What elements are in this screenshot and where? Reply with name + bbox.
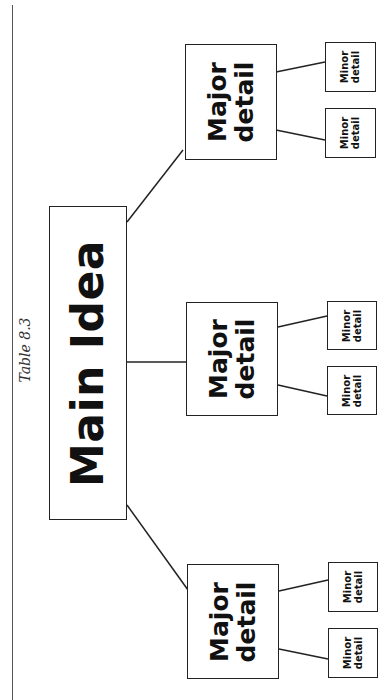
- major-detail-box-1: Major detail: [185, 44, 277, 160]
- major-detail-line2: detail: [232, 319, 259, 400]
- minor-detail-line2: detail: [353, 571, 364, 603]
- minor-detail-box-2a: Minor detail: [327, 301, 377, 350]
- major-detail-line1: Major: [206, 581, 233, 662]
- minor-detail-box-3b: Minor detail: [328, 628, 378, 678]
- minor-detail-line1: Minor: [342, 571, 353, 603]
- main-idea-box: Main Idea: [49, 206, 127, 520]
- major-detail-line1: Major: [204, 62, 231, 143]
- major-detail-line2: detail: [231, 62, 258, 143]
- major-detail-line2: detail: [233, 581, 260, 662]
- major-detail-box-3: Major detail: [187, 564, 279, 679]
- minor-detail-line1: Minor: [339, 117, 350, 149]
- minor-detail-line2: detail: [350, 117, 361, 149]
- minor-detail-box-2b: Minor detail: [327, 366, 377, 415]
- minor-detail-line2: detail: [353, 637, 364, 669]
- minor-detail-line2: detail: [352, 309, 363, 341]
- minor-detail-box-1b: Minor detail: [325, 108, 376, 158]
- minor-detail-line2: detail: [352, 374, 363, 406]
- minor-detail-line1: Minor: [341, 309, 352, 341]
- minor-detail-line2: detail: [350, 51, 361, 83]
- minor-detail-box-1a: Minor detail: [325, 42, 376, 92]
- major-detail-line1: Major: [205, 319, 232, 400]
- minor-detail-line1: Minor: [339, 51, 350, 83]
- minor-detail-line1: Minor: [342, 637, 353, 669]
- minor-detail-box-3a: Minor detail: [328, 562, 378, 612]
- main-idea-label: Main Idea: [63, 239, 114, 486]
- major-detail-box-2: Major detail: [186, 302, 278, 416]
- minor-detail-line1: Minor: [341, 374, 352, 406]
